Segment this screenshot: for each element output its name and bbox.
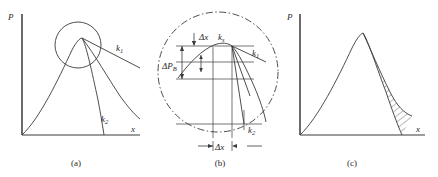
panel-a-y-axis-label: P: [7, 12, 14, 22]
panel-b-arrow-dx-bottom-left-head: [208, 144, 213, 148]
panel-b-arrow-dp-head-up: [180, 46, 184, 51]
panel-a-label-k2: k2: [101, 114, 109, 125]
panel-a-highlight-circle: [55, 22, 101, 68]
panel-c-caption: (c): [347, 158, 357, 168]
panel-a-x-axis-label: x: [130, 124, 135, 134]
panel-b-label-ks: ks: [218, 32, 225, 43]
panel-b-label-delta-p: ΔPB: [161, 61, 177, 72]
panel-b-label-delta-x-top: Δx: [198, 32, 208, 42]
panel-b-label-delta-x-bottom: Δx: [214, 142, 224, 152]
panel-b-label-k2: k2: [248, 125, 256, 136]
figure-three-panel: P x k1 k2 (a): [0, 0, 438, 177]
panel-b-arrow-dp-head-down: [180, 74, 184, 79]
panel-b-arrow-inner-head-down: [199, 68, 203, 72]
panel-b-label-k1: k1: [252, 48, 259, 59]
panel-a-caption: (a): [71, 158, 81, 168]
panel-a-rising-limb: [22, 38, 82, 135]
panel-b-magnifier-circle: [158, 12, 278, 132]
panel-a-curve-k2: [82, 38, 140, 119]
panel-b-arrow-dx-bottom-right-head: [232, 144, 237, 148]
panel-c: P x (c): [286, 12, 425, 168]
panel-a-label-k1: k1: [116, 43, 123, 54]
panel-c-hatched-region: [355, 28, 425, 143]
panel-a: P x k1 k2 (a): [7, 12, 140, 168]
panel-b-arrow-dx-top-head: [192, 41, 196, 46]
panel-c-envelope-curve: [363, 33, 412, 116]
panel-a-line-k1: [82, 38, 140, 68]
panel-b: Δx ks ΔPB k1 k2 Δx (b): [158, 12, 278, 168]
panel-b-line-k2: [232, 46, 244, 124]
panel-c-x-axis-label: x: [415, 124, 420, 134]
figure-svg: P x k1 k2 (a): [0, 0, 438, 177]
panel-c-rising-limb: [300, 33, 363, 135]
panel-b-arrow-inner-head-up: [199, 55, 203, 59]
panel-c-y-axis-label: P: [286, 12, 293, 22]
panel-b-caption: (b): [215, 158, 226, 168]
